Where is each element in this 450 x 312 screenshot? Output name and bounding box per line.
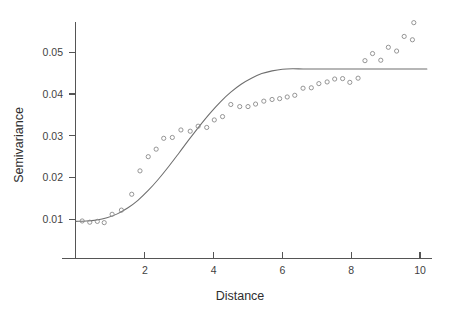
x-axis-title: Distance: [216, 289, 265, 303]
data-point: [363, 59, 367, 63]
semivariogram-chart: 0.05 0.04 0.03 0.02 0.01 2 4 6 8 10 Dist…: [0, 0, 450, 312]
fitted-model-curve: [76, 69, 427, 222]
data-point: [395, 49, 399, 53]
data-point: [333, 77, 337, 81]
data-point: [317, 82, 321, 86]
data-point: [410, 38, 414, 42]
data-point: [412, 21, 416, 25]
data-point: [270, 97, 274, 101]
data-point: [285, 95, 289, 99]
x-axis-tick-labels: 2 4 6 8 10: [142, 264, 426, 276]
data-point: [154, 147, 158, 151]
data-point: [246, 104, 250, 108]
x-tick-label: 6: [279, 264, 285, 276]
data-point: [386, 45, 390, 49]
y-tick-label: 0.05: [43, 46, 64, 58]
data-point: [162, 136, 166, 140]
data-point: [325, 80, 329, 84]
data-point: [301, 86, 305, 90]
data-point-group: [80, 21, 416, 225]
semivariogram-figure: 0.05 0.04 0.03 0.02 0.01 2 4 6 8 10 Dist…: [0, 0, 450, 312]
data-point: [278, 97, 282, 101]
y-tick-label: 0.02: [43, 171, 64, 183]
data-point: [179, 128, 183, 132]
y-axis-title: Semivariance: [12, 107, 26, 183]
data-point: [130, 192, 134, 196]
x-tick-label: 8: [348, 264, 354, 276]
data-point: [370, 51, 374, 55]
x-tick-label: 10: [414, 264, 426, 276]
y-tick-label: 0.03: [43, 130, 64, 142]
data-point: [102, 221, 106, 225]
data-point: [356, 76, 360, 80]
data-point: [309, 86, 313, 90]
y-axis-ticks: [69, 52, 76, 219]
data-point: [146, 155, 150, 159]
data-point: [262, 99, 266, 103]
data-point: [229, 102, 233, 106]
y-axis-tick-labels: 0.05 0.04 0.03 0.02 0.01: [43, 46, 64, 225]
y-tick-label: 0.04: [43, 88, 64, 100]
x-tick-label: 2: [142, 264, 148, 276]
data-point: [170, 135, 174, 139]
data-point: [379, 58, 383, 62]
x-axis-ticks: [145, 252, 420, 259]
data-point: [205, 125, 209, 129]
data-point: [253, 102, 257, 106]
data-point: [402, 34, 406, 38]
data-point: [238, 104, 242, 108]
data-point: [293, 93, 297, 97]
data-point: [212, 118, 216, 122]
data-point: [348, 80, 352, 84]
data-point: [188, 129, 192, 133]
x-tick-label: 4: [211, 264, 217, 276]
data-point: [138, 169, 142, 173]
data-point: [341, 77, 345, 81]
data-point: [220, 115, 224, 119]
y-tick-label: 0.01: [43, 213, 64, 225]
